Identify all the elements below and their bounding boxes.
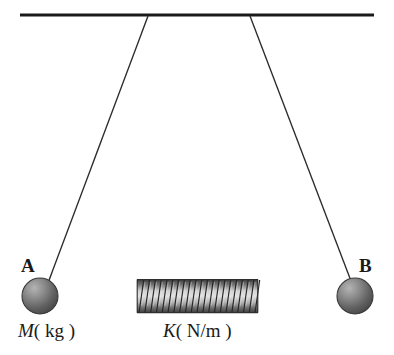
mass-ball-a bbox=[22, 278, 58, 314]
label-spring-quantity: K( N/m ) bbox=[163, 321, 232, 340]
spring-unit: ( N/m ) bbox=[176, 320, 232, 341]
right-string bbox=[250, 16, 351, 281]
coil-spring bbox=[137, 280, 260, 314]
label-point-a: A bbox=[21, 256, 35, 275]
diagram-vector-layer bbox=[0, 0, 394, 355]
physics-diagram-canvas: A B M( kg ) K( N/m ) bbox=[0, 0, 394, 355]
left-string bbox=[48, 16, 148, 283]
mass-symbol: M bbox=[18, 320, 34, 341]
label-mass-quantity: M( kg ) bbox=[18, 321, 75, 340]
mass-ball-b bbox=[337, 278, 373, 314]
mass-unit: ( kg ) bbox=[34, 320, 75, 341]
spring-symbol: K bbox=[163, 320, 176, 341]
label-point-b: B bbox=[359, 256, 372, 275]
